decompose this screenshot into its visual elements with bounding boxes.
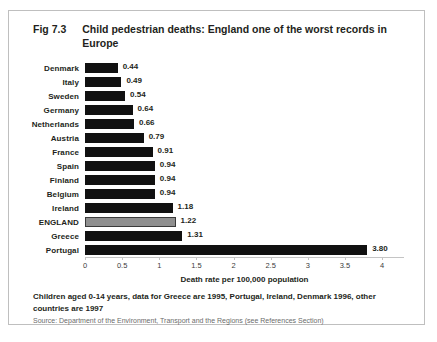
bar-track: 0.94 <box>85 187 426 201</box>
bar-value-label: 0.54 <box>130 90 146 99</box>
bar-rows: Denmark0.44Italy0.49Sweden0.54Germany0.6… <box>9 61 426 257</box>
bar <box>85 175 155 185</box>
bar-value-label: 0.91 <box>158 146 174 155</box>
bar-track: 3.80 <box>85 243 426 257</box>
bar <box>85 119 134 129</box>
category-label: France <box>9 148 85 157</box>
category-label: Greece <box>9 232 85 241</box>
table-row: Sweden0.54 <box>9 89 426 103</box>
bar-value-label: 0.94 <box>160 188 176 197</box>
figure-title-row: Fig 7.3 Child pedestrian deaths: England… <box>33 23 403 50</box>
bar <box>85 217 176 227</box>
bar <box>85 105 133 115</box>
bar-value-label: 0.94 <box>160 160 176 169</box>
axis-tick <box>234 257 235 260</box>
table-row: Spain0.94 <box>9 159 426 173</box>
category-label: Portugal <box>9 246 85 255</box>
table-row: France0.91 <box>9 145 426 159</box>
bar-track: 1.31 <box>85 229 426 243</box>
footnote-note: Children aged 0-14 years, data for Greec… <box>33 291 405 314</box>
category-label: Austria <box>9 134 85 143</box>
axis-tick <box>85 257 86 260</box>
axis-tick-label: 3 <box>306 261 310 270</box>
bar <box>85 133 144 143</box>
bar-value-label: 0.44 <box>123 62 139 71</box>
bar <box>85 77 121 87</box>
bar <box>85 203 173 213</box>
category-label: Ireland <box>9 204 85 213</box>
category-label: Germany <box>9 106 85 115</box>
category-label: ENGLAND <box>9 218 85 227</box>
category-label: Spain <box>9 162 85 171</box>
table-row: Ireland1.18 <box>9 201 426 215</box>
table-row: Austria0.79 <box>9 131 426 145</box>
bar-track: 0.94 <box>85 173 426 187</box>
bar <box>85 147 153 157</box>
bar-value-label: 3.80 <box>372 244 388 253</box>
table-row: Netherlands0.66 <box>9 117 426 131</box>
bar-value-label: 0.49 <box>126 76 142 85</box>
axis-tick-label: 1.5 <box>191 261 201 270</box>
bar-value-label: 0.94 <box>160 174 176 183</box>
axis-tick-label: 0 <box>83 261 87 270</box>
bar-track: 0.64 <box>85 103 426 117</box>
bar-track: 0.94 <box>85 159 426 173</box>
axis-tick-label: 0.5 <box>117 261 127 270</box>
axis-tick-label: 2 <box>231 261 235 270</box>
axis-tick-label: 3.5 <box>340 261 350 270</box>
category-label: Netherlands <box>9 120 85 129</box>
figure-frame: Fig 7.3 Child pedestrian deaths: England… <box>8 10 425 325</box>
bar <box>85 63 118 73</box>
figure-number: Fig 7.3 <box>33 23 66 35</box>
bar-value-label: 1.22 <box>181 216 197 225</box>
axis-tick <box>382 257 383 260</box>
axis-tick-label: 1 <box>157 261 161 270</box>
x-axis-label: Death rate per 100,000 population <box>85 275 404 284</box>
bar-track: 0.49 <box>85 75 426 89</box>
category-label: Finland <box>9 176 85 185</box>
bar-track: 0.66 <box>85 117 426 131</box>
category-label: Belgium <box>9 190 85 199</box>
bar-track: 0.91 <box>85 145 426 159</box>
table-row: ENGLAND1.22 <box>9 215 426 229</box>
axis-tick <box>271 257 272 260</box>
bar <box>85 91 125 101</box>
table-row: Italy0.49 <box>9 75 426 89</box>
footnote-source: Source: Department of the Environment, T… <box>33 316 405 326</box>
table-row: Germany0.64 <box>9 103 426 117</box>
axis-tick-label: 2.5 <box>265 261 275 270</box>
bar <box>85 189 155 199</box>
bar-track: 1.22 <box>85 215 426 229</box>
bar-chart: Denmark0.44Italy0.49Sweden0.54Germany0.6… <box>9 61 426 266</box>
category-label: Sweden <box>9 92 85 101</box>
footnote: Children aged 0-14 years, data for Greec… <box>33 291 405 326</box>
bar-track: 1.18 <box>85 201 426 215</box>
bar-track: 0.44 <box>85 61 426 75</box>
axis-tick-label: 4 <box>380 261 384 270</box>
axis-tick <box>345 257 346 260</box>
bar-value-label: 0.79 <box>149 132 165 141</box>
table-row: Denmark0.44 <box>9 61 426 75</box>
bar-value-label: 0.64 <box>138 104 154 113</box>
axis-tick <box>308 257 309 260</box>
axis-tick <box>159 257 160 260</box>
table-row: Greece1.31 <box>9 229 426 243</box>
bar-value-label: 0.66 <box>139 118 155 127</box>
table-row: Portugal3.80 <box>9 243 426 257</box>
category-label: Italy <box>9 78 85 87</box>
page-title: Child pedestrian deaths: England one of … <box>82 23 403 50</box>
bar <box>85 231 182 241</box>
bar <box>85 245 367 255</box>
category-label: Denmark <box>9 64 85 73</box>
bar-track: 0.54 <box>85 89 426 103</box>
axis-tick <box>196 257 197 260</box>
bar-track: 0.79 <box>85 131 426 145</box>
x-axis-ticks: 00.511.522.533.54 <box>85 257 404 275</box>
bar-value-label: 1.31 <box>187 230 203 239</box>
table-row: Finland0.94 <box>9 173 426 187</box>
bar <box>85 161 155 171</box>
axis-tick <box>122 257 123 260</box>
bar-value-label: 1.18 <box>178 202 194 211</box>
table-row: Belgium0.94 <box>9 187 426 201</box>
